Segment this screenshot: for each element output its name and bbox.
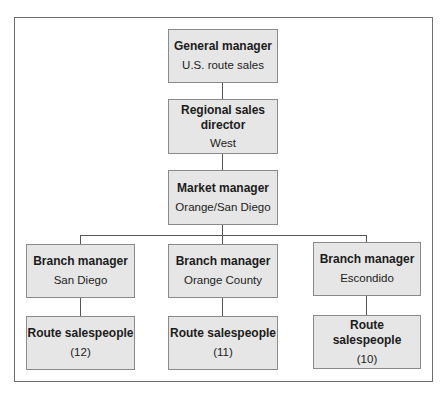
node-subtitle: Escondido bbox=[340, 270, 394, 286]
node-subtitle: West bbox=[210, 135, 236, 151]
connector-to-bm-oc bbox=[222, 235, 223, 244]
node-branch-manager-escondido: Branch manager Escondido bbox=[313, 242, 421, 296]
node-title-line1: Regional sales bbox=[181, 103, 265, 118]
node-subtitle: Orange County bbox=[184, 272, 262, 288]
node-route-salespeople-escondido: Route salespeople (10) bbox=[313, 315, 421, 369]
node-subtitle: Orange/San Diego bbox=[175, 199, 270, 215]
node-branch-manager-san-diego: Branch manager San Diego bbox=[26, 244, 135, 298]
node-subtitle: (11) bbox=[213, 344, 233, 360]
node-subtitle: San Diego bbox=[54, 272, 108, 288]
connector-bm-sd-rs bbox=[80, 298, 81, 316]
connector-mm-down bbox=[222, 225, 223, 235]
connector-to-bm-es bbox=[366, 235, 367, 242]
connector-rsd-mm bbox=[222, 153, 223, 170]
node-branch-manager-orange-county: Branch manager Orange County bbox=[168, 244, 278, 298]
connector-gm-rsd bbox=[222, 82, 223, 99]
node-route-salespeople-orange-county: Route salespeople (11) bbox=[168, 316, 278, 370]
connector-bm-oc-rs bbox=[222, 298, 223, 316]
node-title: Route salespeople bbox=[314, 318, 420, 348]
node-title: Branch manager bbox=[176, 254, 271, 269]
node-title-line2: director bbox=[201, 118, 246, 133]
connector-bm-es-rs bbox=[366, 296, 367, 315]
node-title: Branch manager bbox=[320, 252, 415, 267]
connector-to-bm-sd bbox=[80, 235, 81, 244]
connector-branch-horizontal bbox=[80, 235, 367, 236]
node-market-manager: Market manager Orange/San Diego bbox=[168, 170, 278, 225]
node-subtitle: (10) bbox=[357, 351, 377, 367]
node-title: General manager bbox=[174, 39, 272, 54]
node-title: Route salespeople bbox=[27, 326, 133, 341]
node-title: Branch manager bbox=[33, 254, 128, 269]
node-title: Market manager bbox=[177, 181, 269, 196]
node-regional-sales-director: Regional sales director West bbox=[168, 99, 278, 154]
node-route-salespeople-san-diego: Route salespeople (12) bbox=[26, 316, 135, 370]
node-general-manager: General manager U.S. route sales bbox=[168, 29, 278, 83]
node-title: Route salespeople bbox=[170, 326, 276, 341]
node-subtitle: (12) bbox=[70, 344, 90, 360]
node-subtitle: U.S. route sales bbox=[182, 57, 264, 73]
